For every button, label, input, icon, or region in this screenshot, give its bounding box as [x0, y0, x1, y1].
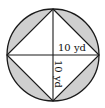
vertical-radius-label: 10 yd — [53, 60, 64, 89]
circle-square-diagram: 10 yd 10 yd — [0, 0, 105, 108]
horizontal-radius-label: 10 yd — [58, 42, 87, 53]
